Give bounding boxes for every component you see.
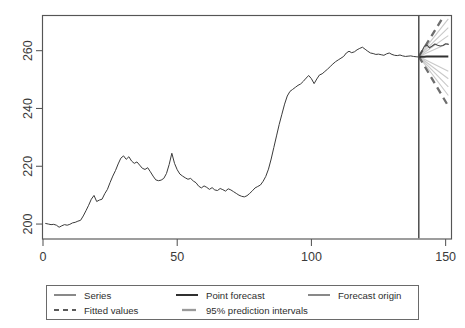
y-tick-label: 260 xyxy=(21,40,35,61)
x-tick-label: 100 xyxy=(301,250,322,264)
inner-interval-lower xyxy=(419,56,449,71)
y-tick-label: 220 xyxy=(21,156,35,177)
x-tick-label: 50 xyxy=(170,250,184,264)
inner-interval-upper xyxy=(419,19,449,57)
chart-canvas: 200220240260 050100150 xyxy=(0,0,465,328)
legend-label-point-forecast: Point forecast xyxy=(206,290,265,301)
forecast-chart-figure: 200220240260 050100150 xyxy=(0,0,465,328)
legend-label-forecast-origin: Forecast origin xyxy=(338,290,401,301)
y-axis-tick-labels: 200220240260 xyxy=(21,40,35,234)
inner-interval-upper xyxy=(419,36,449,57)
observed-series-line xyxy=(46,47,419,227)
plot-frame xyxy=(43,16,452,240)
x-tick-label: 150 xyxy=(435,250,456,264)
y-tick-label: 240 xyxy=(21,98,35,119)
legend-label-series: Series xyxy=(84,290,111,301)
y-axis-ticks xyxy=(36,51,43,224)
x-tick-label: 0 xyxy=(40,250,47,264)
x-axis-ticks xyxy=(43,239,446,246)
x-axis-tick-labels: 050100150 xyxy=(40,250,457,264)
point-forecast-line xyxy=(419,56,449,57)
legend-label-prediction-intervals: 95% prediction intervals xyxy=(206,305,308,316)
y-tick-label: 200 xyxy=(21,214,35,235)
chart-legend: Series Fitted values Point forecast 95% … xyxy=(47,286,419,320)
legend-label-fitted-values: Fitted values xyxy=(84,305,139,316)
